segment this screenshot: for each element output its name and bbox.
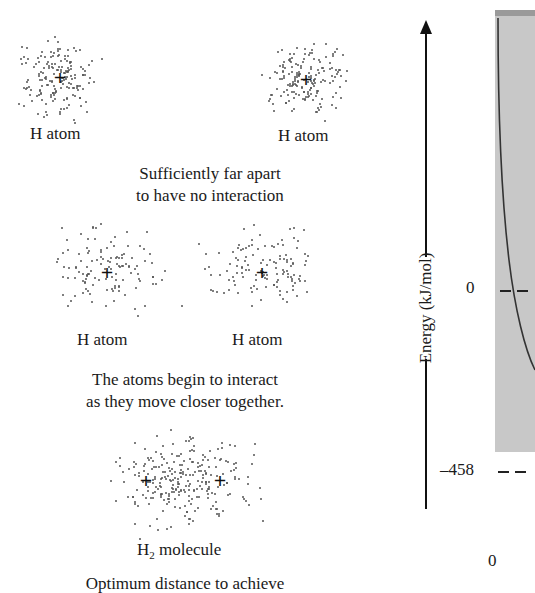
electron-dot	[218, 515, 220, 517]
caption-far-apart: Sufficiently far apart to have no intera…	[90, 163, 330, 207]
electron-dot	[201, 464, 203, 466]
electron-dot	[21, 63, 23, 65]
electron-dot	[30, 89, 32, 91]
electron-dot	[276, 72, 278, 74]
electron-dot	[39, 79, 41, 81]
electron-dot	[58, 54, 60, 56]
electron-dot	[152, 479, 154, 481]
electron-dot	[115, 461, 117, 463]
electron-dot	[260, 498, 262, 500]
electron-dot	[70, 65, 72, 67]
electron-dot	[67, 55, 69, 57]
electron-dot	[292, 285, 294, 287]
electron-dot	[216, 508, 218, 510]
electron-dot	[106, 289, 108, 291]
electron-dot	[259, 234, 261, 236]
electron-dot	[236, 272, 238, 274]
caption-interacting: The atoms begin to interact as they move…	[60, 369, 310, 413]
electron-dot	[293, 227, 295, 229]
electron-dot	[237, 292, 239, 294]
electron-dot	[52, 100, 54, 102]
electron-dot	[199, 485, 201, 487]
electron-dot	[149, 253, 151, 255]
electron-dot	[26, 47, 28, 49]
electron-dot	[133, 466, 135, 468]
electron-dot	[275, 262, 277, 264]
electron-dot	[163, 499, 165, 501]
electron-dot	[292, 289, 294, 291]
electron-dot	[332, 96, 334, 98]
electron-dot	[40, 55, 42, 57]
electron-dot	[171, 468, 173, 470]
electron-dot	[165, 492, 167, 494]
electron-dot	[188, 489, 190, 491]
electron-dot	[162, 510, 164, 512]
electron-dot	[325, 56, 327, 58]
electron-dot	[136, 265, 138, 267]
electron-dot	[205, 483, 207, 485]
electron-dot	[29, 94, 31, 96]
electron-dot	[156, 518, 158, 520]
electron-dot	[155, 451, 157, 453]
electron-dot	[207, 459, 209, 461]
electron-dot	[198, 470, 200, 472]
electron-dot	[128, 265, 130, 267]
electron-dot	[157, 488, 159, 490]
caption-line: The atoms begin to interact	[60, 369, 310, 391]
electron-dot	[334, 51, 336, 53]
electron-dot	[291, 71, 293, 73]
electron-dot	[174, 506, 176, 508]
electron-dot	[173, 491, 175, 493]
electron-dot	[121, 257, 123, 259]
electron-dot	[234, 445, 236, 447]
electron-dot	[180, 469, 182, 471]
electron-dot	[76, 87, 78, 89]
electron-dot	[137, 273, 139, 275]
electron-dot	[311, 49, 313, 51]
electron-dot	[289, 228, 291, 230]
electron-dot	[248, 269, 250, 271]
electron-dot	[118, 290, 120, 292]
electron-dot	[335, 107, 337, 109]
electron-dot	[171, 473, 173, 475]
electron-dot	[82, 273, 84, 275]
electron-dot	[240, 249, 242, 251]
caption-molecule: Optimum distance to achieve	[60, 573, 310, 593]
electron-dot	[226, 270, 228, 272]
electron-dot	[182, 473, 184, 475]
electron-dot	[283, 271, 285, 273]
electron-dot	[154, 491, 156, 493]
electron-dot	[134, 523, 136, 525]
electron-dot	[237, 247, 239, 249]
electron-dot	[279, 255, 281, 257]
electron-dot	[313, 43, 315, 45]
electron-dot	[302, 61, 304, 63]
electron-dot	[318, 109, 320, 111]
electron-dot	[251, 291, 253, 293]
electron-dot	[198, 243, 200, 245]
electron-dot	[189, 458, 191, 460]
electron-dot	[70, 68, 72, 70]
electron-dot	[70, 300, 72, 302]
electron-dot	[331, 104, 333, 106]
electron-dot	[20, 58, 22, 60]
electron-dot	[135, 463, 137, 465]
electron-dot	[84, 282, 86, 284]
electron-dot	[286, 261, 288, 263]
electron-dot	[185, 440, 187, 442]
electron-dot	[184, 505, 186, 507]
electron-dot	[310, 93, 312, 95]
electron-dot	[304, 253, 306, 255]
electron-dot	[164, 471, 166, 473]
electron-dot	[298, 94, 300, 96]
electron-dot	[96, 259, 98, 261]
electron-dot	[115, 273, 117, 275]
atom-label: H atom	[77, 330, 128, 350]
electron-dot	[37, 113, 39, 115]
electron-dot	[115, 279, 117, 281]
electron-dot	[70, 83, 72, 85]
electron-dot	[196, 488, 198, 490]
electron-dot	[41, 85, 43, 87]
electron-dot	[275, 267, 277, 269]
electron-dot	[122, 471, 124, 473]
